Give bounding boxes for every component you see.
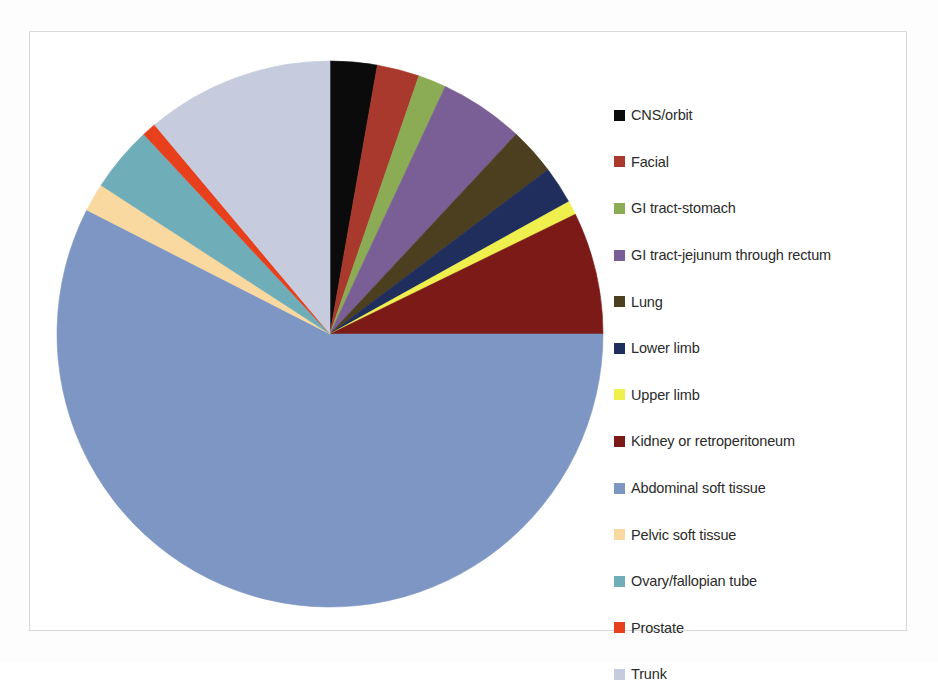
- pie-slice-group: [57, 61, 603, 607]
- legend-item[interactable]: Lower limb: [614, 325, 914, 372]
- legend-swatch-icon: [614, 436, 625, 447]
- legend-item-label: GI tract-stomach: [631, 200, 736, 216]
- legend-item[interactable]: CNS/orbit: [614, 92, 914, 139]
- legend-item[interactable]: Abdominal soft tissue: [614, 465, 914, 512]
- legend-swatch-icon: [614, 483, 625, 494]
- legend-swatch-icon: [614, 576, 625, 587]
- legend-item[interactable]: GI tract-stomach: [614, 185, 914, 232]
- legend-item-label: Facial: [631, 154, 669, 170]
- legend-item-label: GI tract-jejunum through rectum: [631, 247, 831, 263]
- legend-item[interactable]: GI tract-jejunum through rectum: [614, 232, 914, 279]
- legend-swatch-icon: [614, 669, 625, 680]
- chart-legend: CNS/orbitFacialGI tract-stomachGI tract-…: [614, 92, 914, 684]
- legend-item-label: Trunk: [631, 666, 667, 682]
- legend-swatch-icon: [614, 203, 625, 214]
- legend-item-label: Pelvic soft tissue: [631, 527, 736, 543]
- legend-item[interactable]: Pelvic soft tissue: [614, 511, 914, 558]
- legend-item[interactable]: Trunk: [614, 651, 914, 684]
- legend-item[interactable]: Facial: [614, 139, 914, 186]
- legend-item[interactable]: Prostate: [614, 605, 914, 652]
- legend-swatch-icon: [614, 296, 625, 307]
- legend-item[interactable]: Lung: [614, 278, 914, 325]
- legend-item-label: Prostate: [631, 620, 684, 636]
- legend-swatch-icon: [614, 389, 625, 400]
- legend-item-label: Lower limb: [631, 340, 700, 356]
- legend-item-label: CNS/orbit: [631, 107, 693, 123]
- legend-item[interactable]: Upper limb: [614, 372, 914, 419]
- legend-item[interactable]: Ovary/fallopian tube: [614, 558, 914, 605]
- legend-swatch-icon: [614, 529, 625, 540]
- legend-swatch-icon: [614, 343, 625, 354]
- legend-item-label: Abdominal soft tissue: [631, 480, 766, 496]
- legend-item-label: Kidney or retroperitoneum: [631, 433, 795, 449]
- legend-swatch-icon: [614, 622, 625, 633]
- legend-item-label: Lung: [631, 294, 663, 310]
- legend-item-label: Upper limb: [631, 387, 700, 403]
- legend-item-label: Ovary/fallopian tube: [631, 573, 757, 589]
- legend-swatch-icon: [614, 250, 625, 261]
- legend-swatch-icon: [614, 110, 625, 121]
- legend-item[interactable]: Kidney or retroperitoneum: [614, 418, 914, 465]
- legend-swatch-icon: [614, 156, 625, 167]
